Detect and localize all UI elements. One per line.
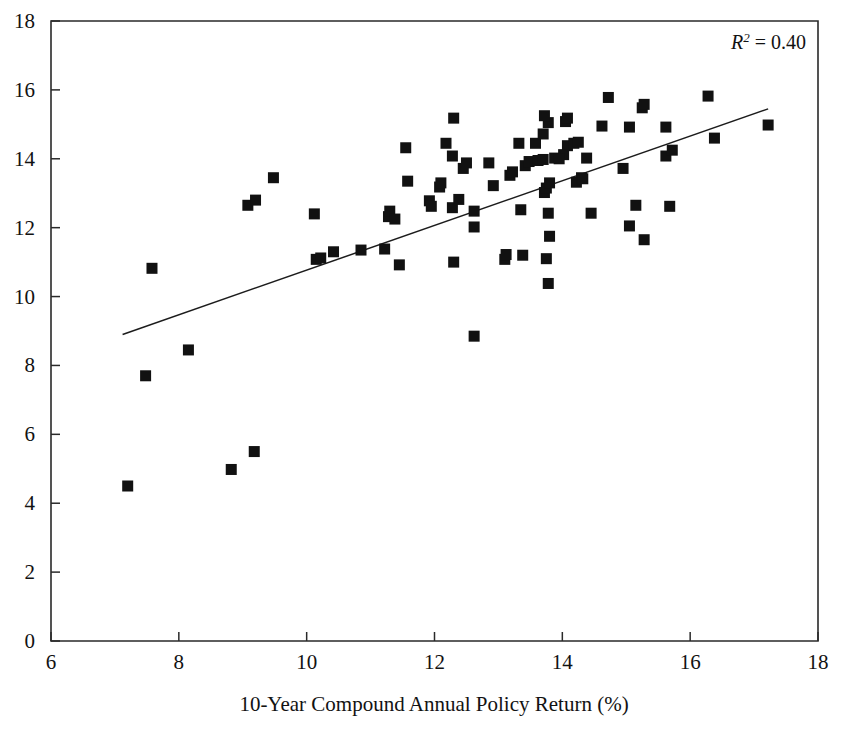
scatter-point bbox=[667, 145, 678, 156]
scatter-point bbox=[624, 122, 635, 133]
scatter-point bbox=[603, 92, 614, 103]
scatter-point bbox=[554, 153, 565, 164]
scatter-point bbox=[664, 201, 675, 212]
y-tick-label: 8 bbox=[25, 353, 36, 377]
scatter-point bbox=[543, 208, 554, 219]
scatter-point bbox=[315, 252, 326, 263]
scatter-point bbox=[538, 154, 549, 165]
scatter-point bbox=[488, 180, 499, 191]
y-tick-label: 0 bbox=[25, 629, 36, 653]
y-tick-label: 4 bbox=[25, 491, 36, 515]
x-tick-label: 16 bbox=[680, 650, 701, 674]
scatter-point bbox=[469, 206, 480, 217]
scatter-point bbox=[122, 481, 133, 492]
x-tick-label: 6 bbox=[46, 650, 57, 674]
y-tick-label: 12 bbox=[14, 216, 35, 240]
scatter-point bbox=[630, 200, 641, 211]
scatter-point bbox=[539, 110, 550, 121]
scatter-point bbox=[660, 122, 671, 133]
x-axis-tick-labels: 681012141618 bbox=[46, 650, 829, 674]
y-tick-label: 10 bbox=[14, 285, 35, 309]
scatter-point bbox=[515, 204, 526, 215]
y-axis-ticks bbox=[51, 21, 60, 641]
r-squared-symbol: R bbox=[730, 31, 743, 53]
scatter-point bbox=[562, 113, 573, 124]
scatter-point bbox=[763, 120, 774, 131]
scatter-point bbox=[469, 221, 480, 232]
scatter-point bbox=[226, 464, 237, 475]
x-tick-label: 12 bbox=[424, 650, 445, 674]
y-axis-tick-labels: 024681012141618 bbox=[14, 9, 36, 653]
scatter-point bbox=[328, 246, 339, 257]
scatter-point bbox=[501, 249, 512, 260]
y-tick-label: 6 bbox=[25, 422, 36, 446]
scatter-point bbox=[426, 201, 437, 212]
scatter-point bbox=[249, 446, 260, 457]
scatter-point bbox=[709, 133, 720, 144]
scatter-point bbox=[483, 157, 494, 168]
scatter-points bbox=[122, 91, 773, 492]
scatter-point bbox=[140, 370, 151, 381]
scatter-point bbox=[441, 138, 452, 149]
scatter-point bbox=[309, 208, 320, 219]
scatter-point bbox=[577, 173, 588, 184]
scatter-point bbox=[517, 250, 528, 261]
scatter-point bbox=[573, 137, 584, 148]
scatter-point bbox=[394, 259, 405, 270]
y-tick-label: 16 bbox=[14, 78, 35, 102]
scatter-point bbox=[453, 194, 464, 205]
scatter-point bbox=[543, 278, 554, 289]
scatter-point bbox=[448, 257, 459, 268]
scatter-point bbox=[624, 220, 635, 231]
scatter-point bbox=[538, 128, 549, 139]
plot-frame bbox=[51, 21, 818, 641]
scatter-point bbox=[618, 163, 629, 174]
scatter-point bbox=[379, 244, 390, 255]
scatter-point bbox=[581, 153, 592, 164]
r-squared-label: R2 = 0.40 bbox=[730, 30, 806, 53]
x-tick-label: 10 bbox=[296, 650, 317, 674]
scatter-point bbox=[513, 138, 524, 149]
scatter-point bbox=[586, 208, 597, 219]
scatter-point bbox=[596, 121, 607, 132]
scatter-point bbox=[461, 157, 472, 168]
x-tick-label: 14 bbox=[552, 650, 574, 674]
scatter-point bbox=[448, 113, 459, 124]
x-tick-label: 8 bbox=[174, 650, 185, 674]
scatter-point bbox=[146, 263, 157, 274]
x-tick-label: 18 bbox=[808, 650, 829, 674]
scatter-point bbox=[447, 151, 458, 162]
scatter-point bbox=[469, 331, 480, 342]
y-tick-label: 14 bbox=[14, 147, 36, 171]
scatter-point bbox=[183, 344, 194, 355]
axes-frame bbox=[51, 21, 818, 641]
scatter-point bbox=[435, 177, 446, 188]
scatter-point bbox=[639, 234, 650, 245]
scatter-point bbox=[268, 172, 279, 183]
scatter-point bbox=[544, 177, 555, 188]
y-tick-label: 2 bbox=[25, 560, 36, 584]
y-tick-label: 18 bbox=[14, 9, 35, 33]
r-squared-value: = 0.40 bbox=[750, 31, 806, 53]
scatter-point bbox=[703, 91, 714, 102]
scatter-plot: 681012141618 024681012141618 10-Year Com… bbox=[0, 0, 841, 740]
scatter-point bbox=[544, 231, 555, 242]
r-squared-annotation: R2 = 0.40 bbox=[730, 30, 806, 53]
scatter-point bbox=[402, 176, 413, 187]
scatter-point bbox=[389, 214, 400, 225]
scatter-point bbox=[400, 142, 411, 153]
x-axis-ticks bbox=[51, 632, 818, 641]
scatter-point bbox=[250, 195, 261, 206]
scatter-point bbox=[356, 245, 367, 256]
scatter-point bbox=[639, 99, 650, 110]
scatter-point bbox=[507, 166, 518, 177]
scatter-point bbox=[541, 253, 552, 264]
x-axis-title: 10-Year Compound Annual Policy Return (%… bbox=[239, 692, 628, 716]
figure-container: 681012141618 024681012141618 10-Year Com… bbox=[0, 0, 841, 740]
